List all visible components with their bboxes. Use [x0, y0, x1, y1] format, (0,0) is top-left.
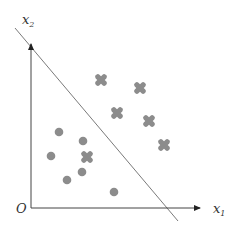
cross-marker — [91, 70, 111, 90]
cross-marker — [130, 78, 150, 98]
x-axis-label: x1 — [213, 201, 225, 218]
circle-marker — [79, 137, 88, 146]
cross-marker — [77, 147, 97, 167]
circle-marker — [47, 152, 56, 161]
origin-label: O — [16, 201, 27, 216]
circle-marker — [63, 176, 72, 185]
scatter-diagram: x2 O x1 — [0, 0, 243, 240]
circle-marker — [110, 188, 119, 197]
cross-marker — [107, 103, 127, 123]
y-axis-label: x2 — [22, 12, 34, 29]
circle-marker — [78, 168, 87, 177]
cross-marker — [139, 111, 159, 131]
cross-marker — [154, 135, 174, 155]
circle-marker — [55, 128, 64, 137]
